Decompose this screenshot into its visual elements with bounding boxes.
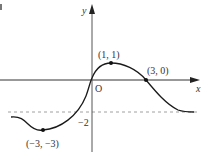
asymptote-label: −2 xyxy=(78,117,89,128)
y-axis-arrow-icon xyxy=(89,4,95,14)
point-x-intercept xyxy=(144,78,148,82)
function-graph: y x O −2 (1, 1) (3, 0) (−3, −3) xyxy=(0,0,204,154)
point-local-max xyxy=(109,61,113,65)
y-axis-label: y xyxy=(81,5,87,16)
point-local-min xyxy=(41,128,45,132)
point-label-max: (1, 1) xyxy=(98,49,120,61)
point-label-intercept: (3, 0) xyxy=(147,65,169,77)
point-label-min: (−3, −3) xyxy=(26,138,59,150)
x-axis-label: x xyxy=(195,83,201,94)
edge-mark xyxy=(0,4,2,10)
origin-label: O xyxy=(95,83,102,94)
